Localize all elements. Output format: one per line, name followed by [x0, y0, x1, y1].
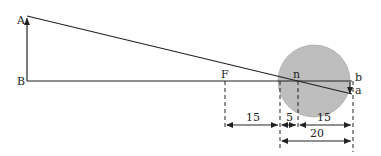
dim-label-15-right: 15 [317, 111, 331, 124]
label-A: A [16, 14, 26, 27]
reduced-eye-diagram: A B F n b a 15 5 15 20 [0, 0, 381, 156]
label-a: a [355, 84, 362, 97]
dim-label-5: 5 [286, 111, 293, 124]
label-F: F [221, 68, 229, 81]
label-b: b [355, 71, 362, 84]
dim-label-15-left: 15 [246, 111, 260, 124]
dim-label-20: 20 [310, 127, 324, 140]
label-B: B [17, 75, 25, 88]
label-n: n [293, 68, 300, 81]
